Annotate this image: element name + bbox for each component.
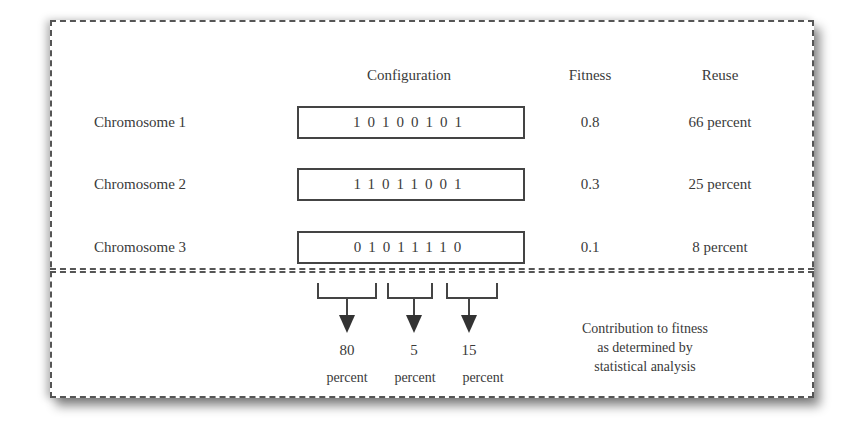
- chromosome-2-bits: 11011001: [297, 168, 525, 201]
- arrow-down-icon: [461, 315, 477, 333]
- header-reuse: Reuse: [670, 67, 770, 84]
- section-divider-2: [50, 271, 814, 273]
- contribution-3-unit: percent: [448, 370, 518, 386]
- frame-border-right: [812, 20, 814, 398]
- diagram-frame: Configuration Fitness Reuse Chromosome 1…: [50, 20, 814, 398]
- chromosome-1-fitness: 0.8: [560, 114, 620, 131]
- arrow-down-icon: [406, 315, 422, 333]
- contribution-2-unit: percent: [380, 370, 450, 386]
- chromosome-3-bits: 01011110: [297, 231, 525, 264]
- chromosome-3-fitness: 0.1: [560, 239, 620, 256]
- bracket-bits-1-3: [317, 283, 377, 299]
- bracket-bits-6-7: [446, 283, 498, 299]
- chromosome-3-label: Chromosome 3: [94, 239, 186, 256]
- header-configuration: Configuration: [309, 67, 509, 84]
- chromosome-1-reuse: 66 percent: [660, 114, 780, 131]
- chromosome-2-label: Chromosome 2: [94, 176, 186, 193]
- frame-border-top: [50, 20, 814, 22]
- frame-border-left: [50, 20, 52, 398]
- note-line-3: statistical analysis: [565, 357, 725, 376]
- bracket-bits-4-5: [387, 283, 433, 299]
- arrow-down-icon: [339, 315, 355, 333]
- contribution-1-unit: percent: [312, 370, 382, 386]
- note-line-1: Contribution to fitness: [565, 319, 725, 338]
- header-fitness: Fitness: [550, 67, 630, 84]
- chromosome-3-reuse: 8 percent: [660, 239, 780, 256]
- note-line-2: as determined by: [565, 338, 725, 357]
- chromosome-1-bits: 10100101: [297, 106, 525, 139]
- chromosome-2-fitness: 0.3: [560, 176, 620, 193]
- section-divider: [50, 268, 814, 270]
- chromosome-1-label: Chromosome 1: [94, 114, 186, 131]
- frame-border-bottom: [50, 396, 814, 398]
- contribution-note: Contribution to fitness as determined by…: [565, 319, 725, 376]
- contribution-3-value: 15: [439, 342, 499, 359]
- contribution-1-value: 80: [317, 342, 377, 359]
- chromosome-2-reuse: 25 percent: [660, 176, 780, 193]
- contribution-2-value: 5: [384, 342, 444, 359]
